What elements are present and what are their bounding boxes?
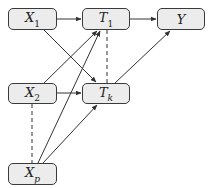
node-x2: X2 (8, 83, 57, 104)
node-tk: Tk (82, 83, 130, 104)
node-t1-label: T1 (99, 10, 113, 28)
node-t1: T1 (82, 8, 130, 30)
node-tk-label: Tk (99, 85, 113, 103)
node-xp-label: Xp (25, 165, 40, 183)
node-y: Y (157, 8, 205, 30)
causal-diagram: X1 T1 Y X2 Tk Xp (0, 0, 213, 188)
node-y-label: Y (177, 12, 186, 27)
node-x2-label: X2 (25, 85, 40, 103)
edge-tk-y (115, 31, 170, 83)
node-xp: Xp (8, 163, 57, 185)
node-x1: X1 (8, 8, 57, 30)
node-x1-label: X1 (25, 10, 40, 28)
